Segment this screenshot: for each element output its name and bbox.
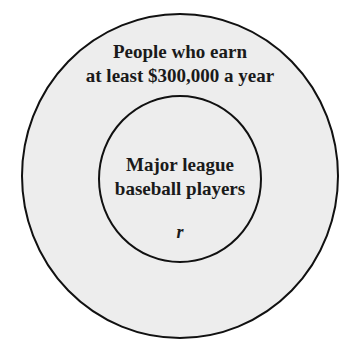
euler-diagram: People who earn at least $300,000 a year… xyxy=(0,0,354,350)
element-r-label: r xyxy=(176,222,184,242)
outer-set-label-line-2: at least $300,000 a year xyxy=(86,65,275,86)
outer-set-label-line-1: People who earn xyxy=(113,41,247,62)
inner-set-label-line-2: baseball players xyxy=(115,178,245,199)
inner-set-label-line-1: Major league xyxy=(126,154,234,175)
